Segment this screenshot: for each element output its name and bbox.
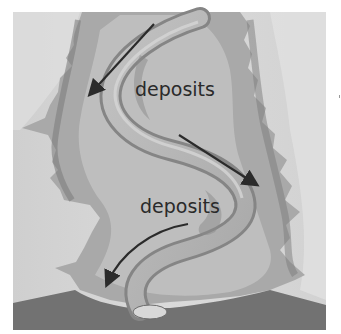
river-illustration-svg: deposits deposits <box>0 0 341 334</box>
meandering-river-illustration: deposits deposits <box>0 0 341 334</box>
deposits-label-lower: deposits <box>140 195 220 217</box>
river-mouth-pool <box>133 305 167 319</box>
stray-mark <box>339 95 340 98</box>
deposits-label-upper: deposits <box>135 78 215 100</box>
